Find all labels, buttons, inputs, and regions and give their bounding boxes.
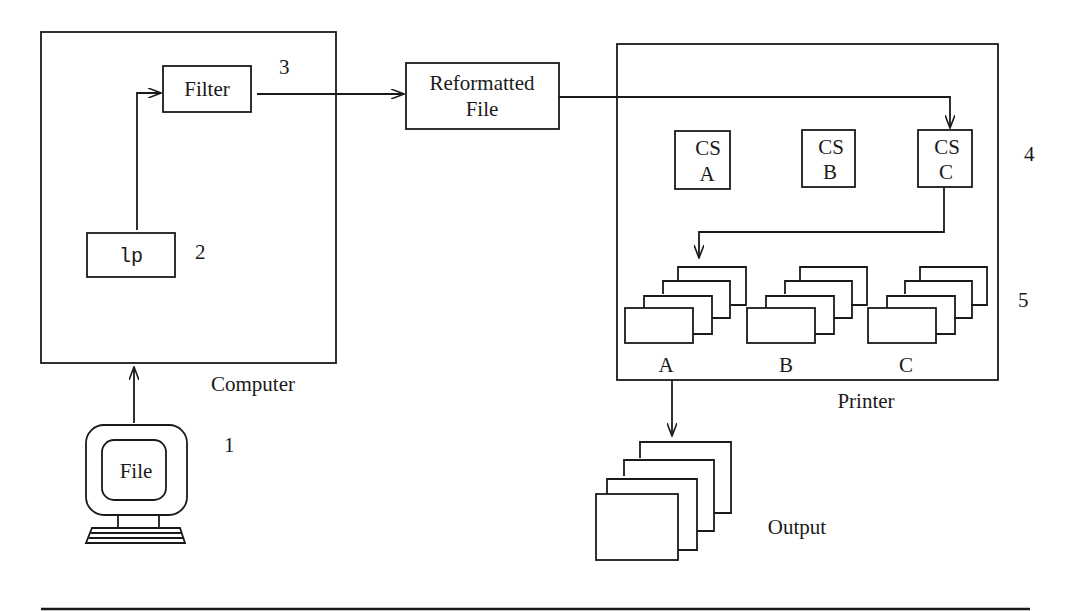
step-1: 1 xyxy=(224,433,235,457)
reformatted-line1: Reformatted xyxy=(430,71,535,95)
arrow-lp-to-filter xyxy=(137,93,161,230)
step-4: 4 xyxy=(1024,142,1035,166)
output-stack xyxy=(596,442,731,560)
computer-label: Computer xyxy=(211,372,295,396)
charset-c-line1: CS xyxy=(934,135,960,159)
arrow-cs-c-to-tray-a xyxy=(699,187,944,258)
step-2: 2 xyxy=(195,240,206,264)
tray-stack-c xyxy=(868,267,987,343)
tray-stack-a xyxy=(625,267,746,343)
tray-c-label: C xyxy=(899,353,913,377)
tray-a-label: A xyxy=(658,353,674,377)
charset-a-line2: A xyxy=(699,162,715,186)
charset-a-line1: CS xyxy=(695,136,721,160)
tray-b-label: B xyxy=(779,353,793,377)
step-3: 3 xyxy=(279,55,290,79)
terminal-icon xyxy=(86,425,187,543)
reformatted-line2: File xyxy=(466,97,499,121)
output-label: Output xyxy=(768,515,827,539)
terminal-file-label: File xyxy=(120,459,153,483)
filter-label: Filter xyxy=(184,77,230,101)
charset-c-line2: C xyxy=(939,160,953,184)
lp-label: lp xyxy=(119,245,143,268)
step-5: 5 xyxy=(1018,288,1029,312)
charset-b-line1: CS xyxy=(818,135,844,159)
print-flow-diagram: Filter lp Computer File Reformatted File… xyxy=(0,0,1068,611)
printer-label: Printer xyxy=(837,389,894,413)
charset-b-line2: B xyxy=(823,160,837,184)
tray-stack-b xyxy=(747,267,867,343)
